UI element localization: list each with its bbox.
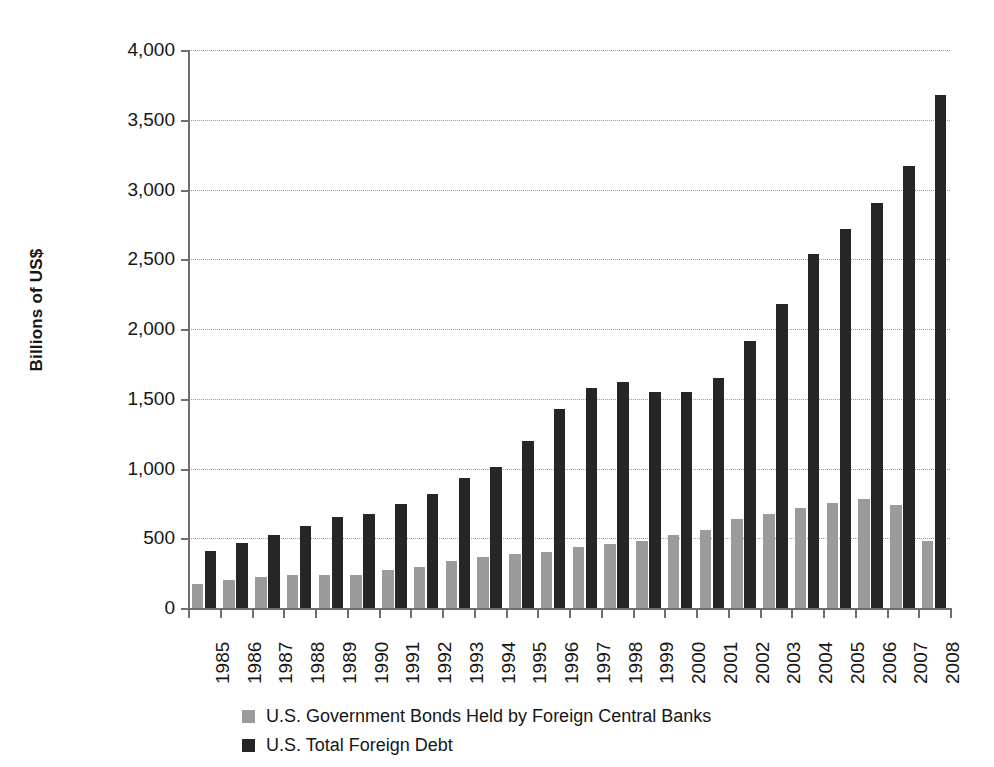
y-axis-line bbox=[188, 50, 190, 608]
y-tick-mark bbox=[181, 190, 188, 192]
bar-group bbox=[760, 50, 792, 608]
bar bbox=[681, 392, 693, 608]
bar bbox=[617, 382, 629, 608]
bar-group bbox=[918, 50, 950, 608]
bar bbox=[827, 503, 839, 608]
x-tick-mark bbox=[664, 608, 666, 618]
bar bbox=[205, 551, 217, 608]
bars-layer bbox=[188, 50, 950, 608]
bar bbox=[744, 341, 756, 608]
x-tick-mark bbox=[696, 608, 698, 618]
bar-group bbox=[506, 50, 538, 608]
bar bbox=[636, 541, 648, 608]
legend-swatch-icon bbox=[242, 710, 255, 723]
x-tick-label-text: 1991 bbox=[402, 642, 424, 684]
x-tick-mark bbox=[728, 608, 730, 618]
bar bbox=[541, 552, 553, 608]
bar bbox=[223, 580, 235, 608]
y-tick-label: 1,000 bbox=[127, 458, 175, 480]
x-tick-label-text: 1994 bbox=[498, 642, 520, 684]
y-tick-mark bbox=[181, 399, 188, 401]
bar-group bbox=[823, 50, 855, 608]
bar bbox=[668, 535, 680, 608]
bar bbox=[490, 467, 502, 608]
bar-group bbox=[474, 50, 506, 608]
x-tick-label-text: 1997 bbox=[593, 642, 615, 684]
x-tick-mark bbox=[442, 608, 444, 618]
y-tick-mark bbox=[181, 538, 188, 540]
bar bbox=[427, 494, 439, 608]
bar-group bbox=[569, 50, 601, 608]
x-tick-mark bbox=[633, 608, 635, 618]
legend-item[interactable]: U.S. Government Bonds Held by Foreign Ce… bbox=[242, 702, 711, 731]
bar bbox=[255, 577, 267, 608]
bar-group bbox=[601, 50, 633, 608]
bar bbox=[300, 526, 312, 608]
bar-group bbox=[855, 50, 887, 608]
bar-group bbox=[633, 50, 665, 608]
bar bbox=[840, 229, 852, 608]
x-tick-mark bbox=[220, 608, 222, 618]
y-axis-title: Billions of US$ bbox=[22, 0, 52, 620]
bar bbox=[522, 441, 534, 608]
y-tick-label: 3,000 bbox=[127, 179, 175, 201]
bar bbox=[871, 203, 883, 608]
y-tick-label: 500 bbox=[143, 527, 175, 549]
x-tick-mark bbox=[569, 608, 571, 618]
bar bbox=[350, 575, 362, 608]
x-tick-label-text: 2003 bbox=[783, 642, 805, 684]
x-tick-mark bbox=[315, 608, 317, 618]
x-tick-mark bbox=[188, 608, 190, 618]
bar bbox=[604, 544, 616, 608]
x-tick-label-text: 1989 bbox=[339, 642, 361, 684]
x-tick-mark bbox=[252, 608, 254, 618]
x-tick-label-text: 2005 bbox=[847, 642, 869, 684]
x-tick-mark bbox=[855, 608, 857, 618]
bar bbox=[363, 514, 375, 608]
x-tick-label-text: 2007 bbox=[910, 642, 932, 684]
x-tick-mark bbox=[950, 608, 952, 618]
bar bbox=[586, 388, 598, 608]
x-tick-label-text: 1995 bbox=[529, 642, 551, 684]
bar bbox=[459, 478, 471, 608]
x-tick-label-text: 1988 bbox=[307, 642, 329, 684]
y-tick-label: 2,000 bbox=[127, 318, 175, 340]
bar-group bbox=[696, 50, 728, 608]
bar-group bbox=[791, 50, 823, 608]
bar bbox=[731, 519, 743, 608]
bar bbox=[395, 504, 407, 608]
x-tick-mark bbox=[537, 608, 539, 618]
legend: U.S. Government Bonds Held by Foreign Ce… bbox=[242, 702, 711, 760]
bar bbox=[903, 166, 915, 608]
bar-group bbox=[442, 50, 474, 608]
bar-group bbox=[664, 50, 696, 608]
x-tick-label-text: 1992 bbox=[434, 642, 456, 684]
bar bbox=[477, 557, 489, 608]
x-tick-mark bbox=[506, 608, 508, 618]
y-tick-mark bbox=[181, 259, 188, 261]
bar bbox=[713, 378, 725, 608]
y-tick-label: 0 bbox=[164, 597, 175, 619]
bar-chart: Billions of US$ 05001,0001,5002,0002,500… bbox=[0, 0, 994, 767]
bar bbox=[649, 392, 661, 608]
x-tick-mark bbox=[791, 608, 793, 618]
x-tick-mark bbox=[760, 608, 762, 618]
y-tick-mark bbox=[181, 50, 188, 52]
x-tick-mark bbox=[474, 608, 476, 618]
bar bbox=[776, 304, 788, 608]
bar-group bbox=[537, 50, 569, 608]
bar-group bbox=[220, 50, 252, 608]
bar bbox=[268, 535, 280, 608]
bar-group bbox=[887, 50, 919, 608]
plot-area: 05001,0001,5002,0002,5003,0003,5004,000 bbox=[188, 50, 950, 608]
bar bbox=[509, 554, 521, 608]
bar bbox=[890, 505, 902, 608]
bar bbox=[763, 514, 775, 608]
bar bbox=[319, 575, 331, 608]
bar-group bbox=[188, 50, 220, 608]
legend-item[interactable]: U.S. Total Foreign Debt bbox=[242, 731, 711, 760]
legend-item-label: U.S. Government Bonds Held by Foreign Ce… bbox=[266, 706, 711, 727]
bar bbox=[446, 561, 458, 608]
y-axis-title-label: Billions of US$ bbox=[27, 249, 47, 372]
y-tick-label: 4,000 bbox=[127, 39, 175, 61]
